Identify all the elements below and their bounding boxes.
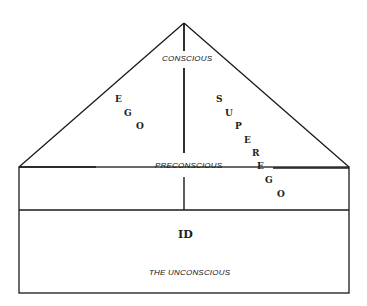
superego-letter-1: S (216, 94, 223, 104)
superego-letter-8: O (277, 189, 285, 199)
superego-letter-3: P (235, 121, 242, 131)
roof-left-edge (19, 23, 184, 167)
label-conscious: CONSCIOUS (162, 54, 212, 63)
label-id: ID (178, 228, 193, 241)
superego-letter-6: E (257, 161, 264, 171)
label-unconscious: THE UNCONSCIOUS (149, 268, 230, 277)
ego-letter-2: G (124, 108, 132, 118)
superego-letter-5: R (252, 148, 259, 158)
label-preconscious: PRECONSCIOUS (155, 161, 222, 170)
superego-letter-7: G (265, 175, 273, 185)
superego-letter-2: U (225, 108, 233, 118)
diagram-lines (0, 0, 367, 306)
roof-right-edge (184, 23, 349, 167)
superego-letter-4: E (244, 135, 251, 145)
ego-letter-3: O (136, 121, 144, 131)
ego-letter-1: E (115, 94, 122, 104)
